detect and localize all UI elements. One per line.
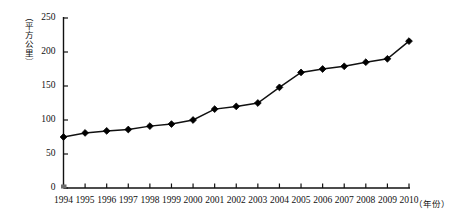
data-point-marker [103,127,110,134]
data-point-marker [341,63,348,70]
data-point-marker [190,117,197,124]
data-point-marker [146,123,153,130]
data-point-marker [82,130,89,137]
y-axis-tick-label: 50 [30,148,56,158]
data-point-marker [319,66,326,73]
data-point-marker [60,134,67,141]
y-axis-tick-label: 100 [30,114,56,124]
y-axis-tick-label: 0 [30,182,56,192]
data-point-marker [211,106,218,113]
chart-plot-area [0,0,459,215]
data-series-line [64,41,410,137]
data-point-marker [233,103,240,110]
y-axis-tick-label: 200 [30,46,56,56]
origin-square-marker [61,185,67,189]
data-point-marker [362,59,369,66]
data-point-marker [125,126,132,133]
y-axis-tick-label: 150 [30,80,56,90]
line-chart-figure: （平方公里） 050100150200250 19941995199619971… [0,0,459,215]
y-axis-tick-label: 250 [30,12,56,22]
x-axis-title: （年份） [414,197,450,209]
data-point-marker [168,121,175,128]
